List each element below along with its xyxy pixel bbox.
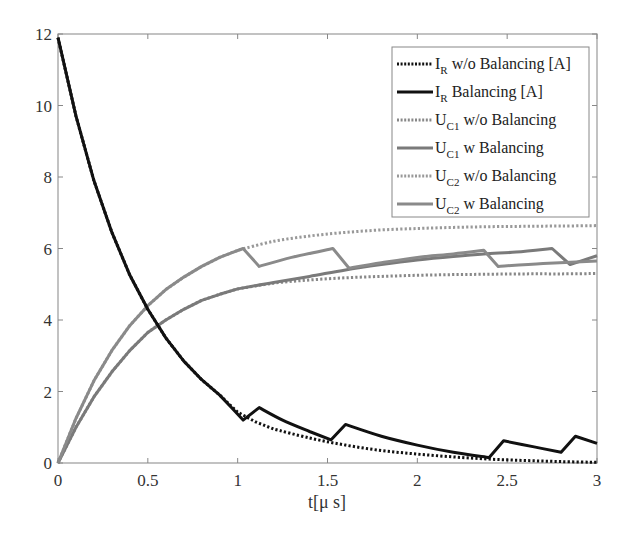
y-tick-label: 2 <box>44 383 53 402</box>
legend: IR w/o Balancing [A]IR Balancing [A]UC1 … <box>392 47 589 217</box>
x-tick-label: 2.5 <box>497 471 518 490</box>
y-tick-label: 12 <box>35 25 52 44</box>
x-tick-label: 0.5 <box>137 471 158 490</box>
x-tick-label: 2 <box>413 471 422 490</box>
x-axis-title: t[μ s] <box>308 492 346 512</box>
y-tick-label: 6 <box>44 240 53 259</box>
x-tick-label: 3 <box>593 471 602 490</box>
x-tick-label: 1.5 <box>317 471 338 490</box>
y-tick-label: 8 <box>44 168 53 187</box>
chart-canvas: 00.511.522.53024681012 t[μ s] IR w/o Bal… <box>0 0 631 539</box>
y-tick-label: 10 <box>35 97 52 116</box>
x-tick-label: 1 <box>233 471 242 490</box>
x-tick-label: 0 <box>54 471 63 490</box>
legend-box <box>392 47 589 217</box>
y-tick-label: 4 <box>44 311 53 330</box>
y-tick-label: 0 <box>44 454 53 473</box>
